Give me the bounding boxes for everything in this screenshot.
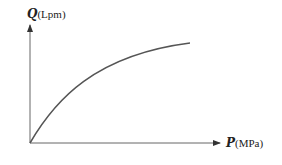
y-variable: Q xyxy=(27,7,37,21)
y-axis-label: Q(Lpm) xyxy=(27,7,66,21)
x-variable: P xyxy=(226,136,235,150)
y-unit: (Lpm) xyxy=(37,8,65,20)
x-axis-label: P(MPa) xyxy=(226,136,263,150)
q-p-curve xyxy=(30,43,190,143)
x-unit: (MPa) xyxy=(235,137,263,149)
